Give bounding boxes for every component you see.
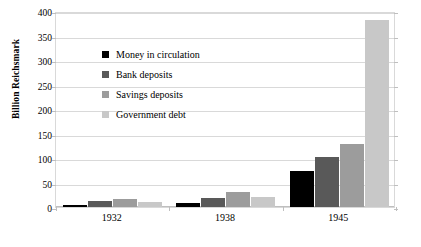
- x-axis-label-1938: 1938: [215, 212, 235, 223]
- x-tick-mark: [56, 207, 57, 211]
- bar: [251, 197, 275, 207]
- y-tick-label: 200: [38, 106, 52, 116]
- legend-swatch-icon: [102, 111, 109, 118]
- bar: [315, 157, 339, 207]
- legend-label: Bank deposits: [116, 69, 172, 80]
- bar: [138, 202, 162, 207]
- bar: [290, 171, 314, 207]
- bar: [340, 144, 364, 207]
- legend-label: Government debt: [116, 109, 186, 120]
- bar-group-1945: [283, 13, 396, 207]
- bar: [176, 203, 200, 207]
- bar-chart: Billion Reichsmark 050100150200250300350…: [0, 0, 421, 247]
- y-tick-label: 50: [43, 180, 53, 190]
- y-tick-label: 250: [38, 82, 52, 92]
- bar: [113, 199, 137, 207]
- y-tick-label: 350: [38, 33, 52, 43]
- x-tick-mark: [169, 207, 170, 211]
- legend-label: Money in circulation: [116, 49, 200, 60]
- x-tick-mark: [283, 207, 284, 211]
- legend-label: Savings deposits: [116, 89, 183, 100]
- y-axis-title: Billion Reichsmark: [11, 9, 21, 149]
- bar: [63, 205, 87, 207]
- legend-item[interactable]: Money in circulation: [102, 44, 200, 64]
- legend-swatch-icon: [102, 51, 109, 58]
- legend-swatch-icon: [102, 71, 109, 78]
- x-axis-label-1932: 1932: [102, 212, 122, 223]
- x-axis-label-1945: 1945: [328, 212, 348, 223]
- legend-swatch-icon: [102, 91, 109, 98]
- bar: [226, 192, 250, 207]
- bar: [88, 201, 112, 207]
- legend-item[interactable]: Bank deposits: [102, 64, 200, 84]
- x-tick-mark: [396, 207, 397, 211]
- legend-item[interactable]: Savings deposits: [102, 84, 200, 104]
- y-tick-label: 150: [38, 131, 52, 141]
- bar: [365, 20, 389, 207]
- legend-item[interactable]: Government debt: [102, 104, 200, 124]
- y-tick-label: 400: [38, 8, 52, 18]
- y-tick-label: 100: [38, 155, 52, 165]
- y-tick-label: 300: [38, 57, 52, 67]
- bar: [201, 198, 225, 207]
- legend: Money in circulationBank depositsSavings…: [102, 44, 200, 124]
